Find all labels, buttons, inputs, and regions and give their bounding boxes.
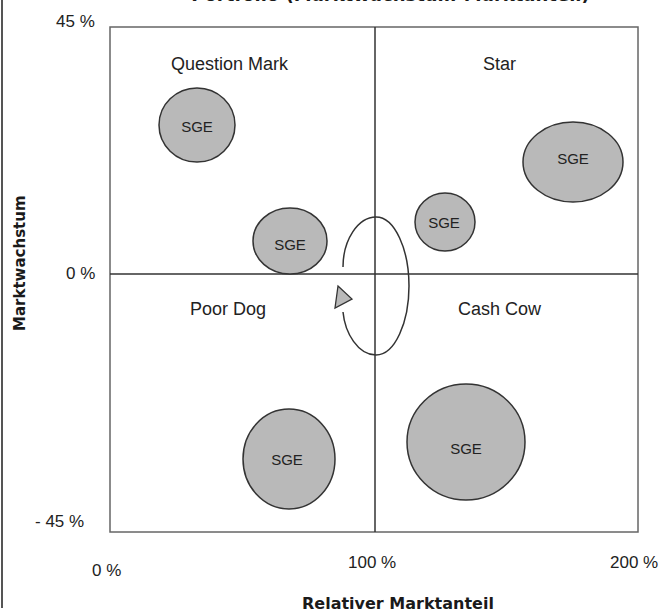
cycle-arrow — [343, 217, 409, 355]
bubble-label: SGE — [274, 236, 306, 253]
quadrant-label-cash-cow: Cash Cow — [458, 299, 541, 320]
bubble-label: SGE — [428, 214, 460, 231]
quadrant-label-poor-dog: Poor Dog — [190, 299, 266, 320]
x-tick-200: 200 % — [610, 553, 658, 573]
quadrant-label-star: Star — [483, 54, 516, 75]
quadrant-label-question-mark: Question Mark — [171, 54, 288, 75]
bubble-label: SGE — [181, 118, 213, 135]
bubble-label: SGE — [450, 440, 482, 457]
y-axis-title: Marktwachstum — [11, 211, 29, 331]
x-tick-100: 100 % — [348, 553, 396, 573]
x-axis-title: Relativer Marktanteil — [302, 594, 494, 613]
arrowhead-icon — [335, 286, 352, 308]
y-tick-bottom: - 45 % — [35, 512, 84, 532]
bubble-label: SGE — [271, 451, 303, 468]
y-tick-top: 45 % — [56, 12, 95, 32]
x-tick-0: 0 % — [92, 561, 121, 581]
y-tick-mid: 0 % — [66, 264, 95, 284]
bubble-label: SGE — [557, 150, 589, 167]
